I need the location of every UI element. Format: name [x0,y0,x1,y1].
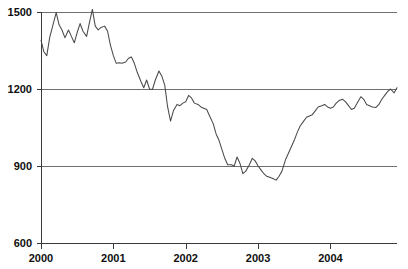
x-axis-tick-labels: 20002001200220032004 [29,252,344,264]
y-tick-label-900: 900 [14,160,32,172]
y-axis-tick-labels: 60090012001500 [8,6,32,249]
axis-lines [42,13,398,244]
series-lines [41,9,397,180]
y-tick-label-600: 600 [14,237,32,249]
x-tick-label-2001: 2001 [101,252,125,264]
x-tick-label-2004: 2004 [318,252,343,264]
chart-canvas: 60090012001500 20002001200220032004 [0,0,408,269]
y-tick-label-1500: 1500 [8,6,32,18]
gridlines [41,13,397,167]
tick-marks [37,13,331,249]
x-tick-label-2000: 2000 [29,252,53,264]
x-tick-label-2002: 2002 [173,252,197,264]
series-line-index [41,9,397,180]
x-tick-label-2003: 2003 [246,252,270,264]
y-tick-label-1200: 1200 [8,83,32,95]
line-chart: 60090012001500 20002001200220032004 [0,0,408,269]
